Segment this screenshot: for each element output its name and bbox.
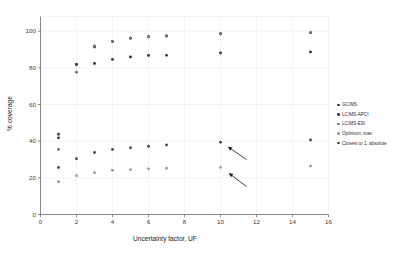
axis-ticks: 0246810121416020406080100 <box>26 27 333 225</box>
data-point <box>219 32 222 35</box>
data-point <box>57 133 60 136</box>
y-tick-label: 100 <box>26 27 37 34</box>
data-point <box>129 56 132 59</box>
legend-item-1: LC/MS-APCI <box>337 110 416 120</box>
data-point <box>165 144 168 147</box>
data-point <box>57 148 60 151</box>
data-point <box>75 174 78 177</box>
legend-marker-icon <box>337 123 340 126</box>
data-point <box>75 63 78 66</box>
y-tick-label: 40 <box>29 137 36 144</box>
data-point <box>111 148 114 151</box>
data-point <box>309 31 312 34</box>
chart-legend: GC/MSLC/MS-APCILC/MS-ESIOptimum, maxClos… <box>337 100 416 148</box>
data-point <box>309 50 312 53</box>
legend-item-label: LC/MS-APCI <box>342 112 369 117</box>
data-point <box>75 157 78 160</box>
y-tick-label: 60 <box>29 101 36 108</box>
legend-item-label: Closest to 1, absolute <box>342 141 387 146</box>
data-point <box>147 167 150 170</box>
legend-marker-icon <box>337 132 340 135</box>
data-point <box>309 139 312 142</box>
legend-item-label: GC/MS <box>342 102 357 107</box>
data-point <box>57 180 60 183</box>
legend-item-label: Optimum, max <box>342 131 372 136</box>
legend-marker-icon <box>337 142 340 145</box>
x-tick-label: 2 <box>75 218 79 225</box>
data-point <box>93 151 96 154</box>
data-point <box>219 166 222 169</box>
data-point <box>111 169 114 172</box>
legend-marker-icon <box>337 113 340 116</box>
legend-item-0: GC/MS <box>337 100 416 110</box>
gridlines <box>41 17 329 215</box>
data-point <box>111 40 114 43</box>
arrow-shaft <box>232 176 247 187</box>
x-tick-label: 8 <box>183 218 187 225</box>
legend-item-label: LC/MS-ESI <box>342 121 365 126</box>
data-point <box>129 168 132 171</box>
x-axis-title: Uncertainty factor, UF <box>0 235 330 242</box>
data-point <box>219 52 222 55</box>
data-point <box>165 54 168 57</box>
data-point <box>57 166 60 169</box>
x-tick-label: 12 <box>253 218 260 225</box>
x-tick-label: 4 <box>111 218 115 225</box>
data-point <box>309 165 312 168</box>
data-point <box>93 62 96 65</box>
y-axis-title: % coverage <box>6 79 13 149</box>
x-tick-label: 0 <box>39 218 43 225</box>
y-tick-label: 20 <box>29 174 36 181</box>
x-tick-label: 16 <box>325 218 332 225</box>
data-point <box>219 141 222 144</box>
data-point <box>111 58 114 61</box>
annotations <box>228 147 247 187</box>
scatter-plot-figure: 0246810121416020406080100 Uncertainty fa… <box>0 0 416 258</box>
y-tick-label: 80 <box>29 64 36 71</box>
data-point <box>129 146 132 149</box>
data-point <box>93 171 96 174</box>
data-point <box>147 145 150 148</box>
data-point <box>129 37 132 40</box>
arrow-head <box>228 147 233 151</box>
legend-item-3: Optimum, max <box>337 129 416 139</box>
legend-item-4: Closest to 1, absolute <box>337 138 416 148</box>
legend-item-2: LC/MS-ESI <box>337 119 416 129</box>
data-point <box>75 71 78 74</box>
data-point <box>165 34 168 37</box>
arrow-head <box>229 173 234 177</box>
arrow-shaft <box>231 149 246 159</box>
x-tick-label: 6 <box>147 218 151 225</box>
data-point <box>147 35 150 38</box>
x-tick-label: 10 <box>217 218 224 225</box>
data-point <box>165 167 168 170</box>
data-point <box>57 136 60 139</box>
data-point <box>93 45 96 48</box>
y-tick-label: 0 <box>32 211 36 218</box>
legend-marker-icon <box>337 104 340 107</box>
x-tick-label: 14 <box>289 218 296 225</box>
data-point <box>147 54 150 57</box>
